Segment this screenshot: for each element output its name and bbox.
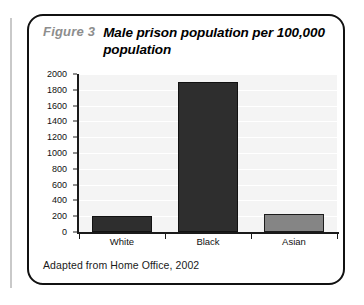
x-axis-label: Asian: [282, 236, 306, 247]
bar-white: [92, 216, 152, 232]
y-axis-tick: [73, 137, 77, 138]
y-axis-label: 600: [52, 180, 67, 190]
y-axis-tick: [73, 168, 77, 169]
y-axis-tick: [73, 89, 77, 90]
plot-area: [79, 74, 337, 232]
x-axis-label: White: [110, 236, 134, 247]
y-axis-label: 800: [52, 164, 67, 174]
y-axis-tick: [73, 216, 77, 217]
y-axis-label: 400: [52, 195, 67, 205]
y-axis-label: 1200: [47, 132, 67, 142]
y-axis-label: 1000: [47, 148, 67, 158]
gridline: [79, 74, 337, 75]
bar-chart: 0200400600800100012001400160018002000 Wh…: [37, 74, 337, 254]
y-axis-line: [77, 74, 79, 233]
y-axis-label: 1400: [47, 116, 67, 126]
y-axis-tick: [73, 200, 77, 201]
figure-number-label: Figure 3: [43, 24, 103, 39]
x-axis-label: Black: [196, 236, 219, 247]
y-axis-label: 1600: [47, 101, 67, 111]
x-axis-tick: [251, 234, 252, 239]
y-axis-tick: [73, 121, 77, 122]
y-axis-tick: [73, 105, 77, 106]
y-axis-label: 2000: [47, 69, 67, 79]
bar-asian: [264, 214, 324, 232]
y-axis-tick: [73, 153, 77, 154]
figure-box: Figure 3 Male prison population per 100,…: [27, 14, 345, 285]
x-axis-tick: [79, 234, 80, 239]
y-axis-tick: [73, 184, 77, 185]
y-axis-tick-labels: 0200400600800100012001400160018002000: [37, 74, 71, 232]
y-axis-label: 1800: [47, 85, 67, 95]
figure-source-note: Adapted from Home Office, 2002: [43, 259, 199, 271]
page-margin-rule: [10, 18, 12, 288]
y-axis-tick: [73, 232, 77, 233]
bar-black: [178, 82, 238, 232]
figure-title-text: Male prison population per 100,000 popul…: [103, 24, 333, 58]
y-axis-label: 200: [52, 211, 67, 221]
x-axis-line: [77, 232, 339, 234]
y-axis-label: 0: [62, 227, 67, 237]
x-axis-tick: [165, 234, 166, 239]
x-axis-tick: [337, 234, 338, 239]
figure-title: Figure 3 Male prison population per 100,…: [43, 24, 333, 58]
y-axis-tick: [73, 74, 77, 75]
